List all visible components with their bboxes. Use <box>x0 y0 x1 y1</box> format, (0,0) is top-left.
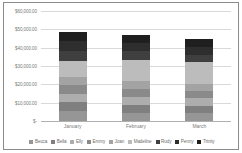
legend-item-emmy[interactable]: Emmy <box>87 139 105 144</box>
bar-segment[interactable] <box>59 51 87 61</box>
legend-item-trinity[interactable]: Trinity <box>197 139 214 144</box>
bar-segment[interactable] <box>59 77 87 85</box>
bar-segment[interactable] <box>59 85 87 93</box>
legend-label: Trinity <box>203 139 215 144</box>
gridline <box>41 121 231 122</box>
y-axis-tick-label: $60,000.00 <box>15 9 37 14</box>
bar-segment[interactable] <box>59 94 87 103</box>
legend-item-joan[interactable]: Joan <box>109 139 124 144</box>
bar-segment[interactable] <box>59 32 87 41</box>
legend-item-rudy[interactable]: Rudy <box>156 139 172 144</box>
legend-label: Madeline <box>134 139 152 144</box>
bar-segment[interactable] <box>185 106 213 114</box>
y-axis-tick-label: $50,000.00 <box>15 27 37 32</box>
legend-item-bella[interactable]: Bella <box>51 139 66 144</box>
bar-segment[interactable] <box>185 62 213 84</box>
bar-segment[interactable] <box>122 97 150 105</box>
bar-segment[interactable] <box>185 55 213 63</box>
legend-swatch-icon <box>87 140 91 144</box>
bar-segment[interactable] <box>185 113 213 121</box>
legend-swatch-icon <box>156 140 160 144</box>
y-axis-tick-label: $40,000.00 <box>15 45 37 50</box>
legend-swatch-icon <box>29 140 33 144</box>
legend-item-elly[interactable]: Elly <box>70 139 83 144</box>
bar-segment[interactable] <box>122 105 150 113</box>
legend-label: Becca <box>35 139 47 144</box>
bar-segment[interactable] <box>122 51 150 59</box>
bar-column-march[interactable] <box>185 39 213 121</box>
legend-label: Bella <box>57 139 67 144</box>
gridline <box>41 11 231 12</box>
legend-label: Joan <box>115 139 125 144</box>
bar-segment[interactable] <box>185 84 213 91</box>
legend-item-madeline[interactable]: Madeline <box>128 139 151 144</box>
y-axis: $-$10,000.00$20,000.00$30,000.00$40,000.… <box>4 11 39 121</box>
bar-segment[interactable] <box>122 35 150 43</box>
bar-column-february[interactable] <box>122 35 150 121</box>
bar-column-january[interactable] <box>59 32 87 121</box>
bar-segment[interactable] <box>122 113 150 121</box>
bar-segment[interactable] <box>59 61 87 77</box>
x-axis-tick-label: January <box>64 123 82 129</box>
bar-segment[interactable] <box>59 102 87 111</box>
bar-segment[interactable] <box>185 91 213 98</box>
legend-swatch-icon <box>70 140 74 144</box>
bar-segment[interactable] <box>122 60 150 82</box>
bar-segment[interactable] <box>59 111 87 121</box>
legend-label: Elly <box>76 139 83 144</box>
bar-segment[interactable] <box>122 89 150 97</box>
legend-swatch-icon <box>197 140 201 144</box>
y-axis-tick-label: $20,000.00 <box>15 82 37 87</box>
bar-segment[interactable] <box>122 43 150 51</box>
x-axis-tick-label: February <box>126 123 146 129</box>
x-axis: JanuaryFebruaryMarch <box>41 123 231 133</box>
legend-label: Rudy <box>161 139 171 144</box>
gridline <box>41 29 231 30</box>
x-axis-tick-label: March <box>192 123 206 129</box>
legend-item-penny[interactable]: Penny <box>175 139 193 144</box>
legend-swatch-icon <box>175 140 179 144</box>
y-axis-tick-label: $30,000.00 <box>15 64 37 69</box>
y-axis-tick-label: $- <box>33 119 37 124</box>
plot-area <box>41 11 231 121</box>
bar-segment[interactable] <box>59 41 87 51</box>
legend-swatch-icon <box>128 140 132 144</box>
legend-label: Emmy <box>92 139 105 144</box>
bar-segment[interactable] <box>185 47 213 55</box>
legend-label: Penny <box>181 139 194 144</box>
chart-legend: BeccaBellaEllyEmmyJoanMadelineRudyPennyT… <box>10 136 234 147</box>
legend-swatch-icon <box>109 140 113 144</box>
bar-segment[interactable] <box>185 98 213 105</box>
chart-frame: $-$10,000.00$20,000.00$30,000.00$40,000.… <box>3 2 239 150</box>
legend-item-becca[interactable]: Becca <box>29 139 47 144</box>
bar-segment[interactable] <box>122 81 150 89</box>
bar-segment[interactable] <box>185 39 213 46</box>
legend-swatch-icon <box>51 140 55 144</box>
y-axis-tick-label: $10,000.00 <box>15 100 37 105</box>
